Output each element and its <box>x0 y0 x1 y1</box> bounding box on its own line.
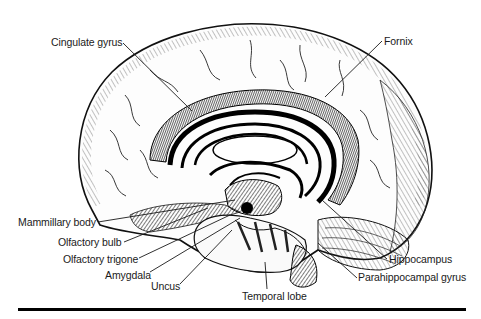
label-fornix: Fornix <box>384 36 413 47</box>
bottom-rule-divider <box>18 308 466 311</box>
label-hippocampus: Hippocampus <box>389 254 452 265</box>
label-olfactory-bulb: Olfactory bulb <box>58 237 121 248</box>
label-cingulate-gyrus: Cingulate gyrus <box>51 37 122 48</box>
label-amygdala: Amygdala <box>105 270 151 281</box>
brain-limbic-diagram: Cingulate gyrus Fornix Mammillary body O… <box>0 0 481 319</box>
label-olfactory-trigone: Olfactory trigone <box>63 254 138 265</box>
label-uncus: Uncus <box>151 281 180 292</box>
label-parahippocampal-gyrus: Parahippocampal gyrus <box>358 272 466 283</box>
label-mammillary-body: Mammillary body <box>18 217 96 228</box>
label-temporal-lobe: Temporal lobe <box>242 291 307 302</box>
